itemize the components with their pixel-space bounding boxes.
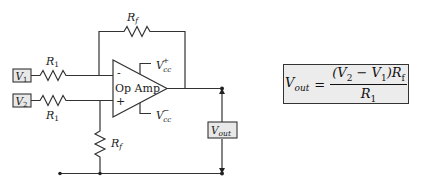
vcc-pos-label: V+cc	[156, 56, 171, 74]
r1-top-resistor	[31, 71, 113, 81]
v1-input-box: V1	[13, 69, 31, 84]
vout-box: Vout	[208, 122, 237, 138]
ground-node-junction	[98, 172, 102, 176]
non-inverting-input-sign: +	[116, 95, 125, 108]
rf-ground-label: Rf	[110, 137, 123, 151]
r1-bottom-resistor	[31, 96, 113, 106]
op-amp-label: Op Amp	[115, 82, 160, 95]
formula-lhs: Vout	[285, 75, 309, 93]
formula-numerator: (V2 − V1)Rf	[330, 65, 407, 85]
rf-ground-resistor	[95, 101, 105, 174]
formula-denominator: R1	[361, 85, 377, 104]
ground-node-left	[58, 172, 62, 176]
rf-feedback-label: Rf	[126, 11, 139, 25]
formula-equals: =	[314, 77, 325, 92]
rf-feedback-resistor	[99, 27, 185, 89]
arrow-up-icon	[219, 89, 225, 95]
formula-fraction: (V2 − V1)Rf R1	[330, 65, 407, 103]
vcc-pos-lead	[140, 64, 151, 75]
r1-bottom-label: R1	[45, 109, 59, 123]
vcc-neg-lead	[140, 103, 151, 114]
inverting-input-sign: -	[117, 67, 121, 80]
v2-input-box: V2	[13, 94, 31, 109]
r1-top-label: R1	[45, 55, 59, 69]
vout-formula-box: Vout = (V2 − V1)Rf R1	[283, 64, 409, 104]
arrow-down-icon	[219, 168, 225, 174]
vcc-neg-label: V−cc	[156, 106, 171, 124]
